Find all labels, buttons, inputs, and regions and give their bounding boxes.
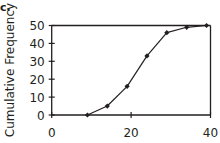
data-point-marker [204, 23, 209, 28]
y-tick-label: 20 [29, 73, 44, 87]
series-line-segment [167, 27, 187, 32]
y-axis-label: Cumulative Frequency [3, 3, 17, 137]
series-line-segment [87, 106, 107, 115]
y-tick-label: 50 [29, 19, 44, 33]
data-point-marker [85, 112, 90, 117]
y-tick-label: 40 [29, 37, 44, 51]
x-tick-label: 20 [123, 126, 138, 140]
y-tick-label: 10 [29, 91, 44, 105]
cumulative-frequency-chart: 0102030405002040 Cumulative Frequency [0, 0, 220, 143]
x-tick-label: 40 [203, 126, 218, 140]
y-tick-label: 30 [29, 55, 44, 69]
y-tick-label: 0 [37, 109, 45, 123]
series-line-segment [127, 56, 147, 86]
series-line-segment [147, 33, 167, 56]
series-line-segment [107, 86, 127, 106]
x-tick-label: 0 [48, 126, 56, 140]
